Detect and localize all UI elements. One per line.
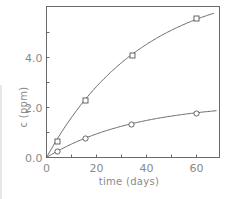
y-tick-label: 4.0 xyxy=(25,52,43,65)
x-axis-label: time (days) xyxy=(99,176,159,187)
y-axis-label: c (ppm) xyxy=(18,86,29,127)
square-marker xyxy=(130,53,135,58)
circle-marker xyxy=(55,149,60,154)
square-marker xyxy=(194,16,199,21)
y-tick-label: 0.0 xyxy=(25,152,43,165)
x-tick-label: 40 xyxy=(140,162,154,175)
circle-marker xyxy=(194,111,199,116)
plot-frame xyxy=(47,7,220,158)
fit-curve-circles xyxy=(47,111,217,158)
x-tick-label: 0 xyxy=(43,162,50,175)
plot-area xyxy=(47,7,220,158)
series-layer xyxy=(47,13,217,157)
circle-marker xyxy=(83,136,88,141)
circle-marker xyxy=(129,122,134,127)
x-tick-label: 20 xyxy=(90,162,104,175)
fit-curve-squares xyxy=(47,13,215,157)
square-marker xyxy=(83,98,88,103)
square-marker xyxy=(55,139,60,144)
x-tick-label: 60 xyxy=(190,162,204,175)
chart: 0204060 0.02.04.0 time (days) c (ppm) xyxy=(0,0,227,199)
